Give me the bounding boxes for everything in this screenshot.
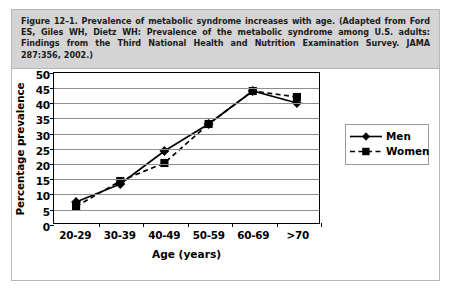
y-axis-tickmark (50, 164, 54, 165)
gridline (54, 194, 319, 195)
chart-legend: Men Women (345, 124, 429, 165)
y-axis-label-text: Percentage prevalence (14, 82, 26, 215)
series-plot (54, 73, 319, 223)
gridline (54, 134, 319, 135)
y-axis-tick-labels: 50454035302520151050 (28, 72, 50, 224)
x-axis-tick: 40-49 (148, 229, 180, 241)
gridline (54, 179, 319, 180)
y-axis-tick: 25 (36, 146, 50, 157)
gridline (54, 103, 319, 104)
x-axis-tick-labels: 20-2930-3940-4950-5960-69>70 (53, 229, 320, 243)
y-axis-tickmark (50, 88, 54, 89)
y-axis-tick: 5 (43, 206, 50, 217)
y-axis-tick: 45 (36, 85, 50, 96)
chart-area: Percentage prevalence 504540353025201510… (12, 69, 439, 276)
y-axis-tickmark (50, 149, 54, 150)
legend-item-men: Men (349, 129, 425, 144)
y-axis-tickmark (50, 210, 54, 211)
y-axis-tickmark (50, 225, 54, 226)
y-axis-tick: 20 (36, 161, 50, 172)
y-axis-tickmark (50, 118, 54, 119)
data-point-women (205, 120, 213, 128)
gridline (54, 88, 319, 89)
figure-caption-text: Figure 12–1. Prevalence of metabolic syn… (21, 16, 430, 61)
legend-item-women: Women (349, 144, 425, 159)
legend-swatch-women-icon (349, 145, 383, 158)
y-axis-tickmark (50, 179, 54, 180)
legend-label-women: Women (383, 145, 430, 157)
y-axis-tick: 0 (43, 222, 50, 233)
x-axis-tick: 50-59 (193, 229, 225, 241)
figure-container: Figure 12–1. Prevalence of metabolic syn… (11, 9, 440, 281)
y-axis-tickmark (50, 103, 54, 104)
x-axis-label: Age (years) (53, 248, 320, 260)
gridline (54, 210, 319, 211)
y-axis-tick: 30 (36, 130, 50, 141)
y-axis-label: Percentage prevalence (12, 69, 28, 229)
data-point-women (293, 93, 301, 101)
x-axis-tickmark (188, 223, 189, 227)
x-axis-tickmark (232, 223, 233, 227)
y-axis-tick: 15 (36, 176, 50, 187)
legend-swatch-men-icon (349, 130, 383, 143)
x-axis-tick: 20-29 (59, 229, 91, 241)
x-axis-tick: >70 (286, 229, 309, 241)
gridline (54, 149, 319, 150)
y-axis-tick: 35 (36, 115, 50, 126)
y-axis-tick: 50 (36, 70, 50, 81)
gridline (54, 164, 319, 165)
x-axis-tickmark (143, 223, 144, 227)
x-axis-tickmark (277, 223, 278, 227)
legend-label-men: Men (383, 130, 411, 142)
data-point-women (160, 159, 168, 167)
y-axis-tickmark (50, 73, 54, 74)
x-axis-tick: 60-69 (237, 229, 269, 241)
gridline (54, 118, 319, 119)
y-axis-tickmark (50, 194, 54, 195)
series-line-men (76, 91, 297, 202)
y-axis-tick: 40 (36, 100, 50, 111)
x-axis-tickmark (321, 223, 322, 227)
figure-caption-block: Figure 12–1. Prevalence of metabolic syn… (12, 10, 439, 69)
plot-frame (53, 72, 320, 224)
y-axis-tick: 10 (36, 191, 50, 202)
x-axis-tickmark (99, 223, 100, 227)
x-axis-tick: 30-39 (104, 229, 136, 241)
y-axis-tickmark (50, 134, 54, 135)
data-point-women (116, 177, 124, 185)
